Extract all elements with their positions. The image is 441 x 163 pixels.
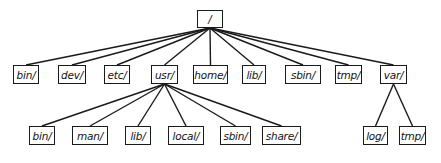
- filesystem-tree-diagram: / bin/ dev/ etc/ usr/ home/ lib/ sbin/ t…: [0, 0, 441, 163]
- node-root[interactable]: /: [197, 10, 223, 28]
- node-usr-sbin[interactable]: sbin/: [220, 126, 251, 145]
- tree-edge: [210, 28, 303, 65]
- node-var-tmp[interactable]: tmp/: [399, 126, 426, 145]
- node-usr-share[interactable]: share/: [262, 126, 301, 145]
- tree-edge: [72, 28, 210, 65]
- node-usr-lib[interactable]: lib/: [125, 126, 151, 145]
- node-home[interactable]: home/: [193, 65, 228, 84]
- tree-edge: [210, 28, 211, 65]
- node-dev[interactable]: dev/: [58, 65, 86, 84]
- tree-edge: [376, 84, 394, 126]
- node-sbin[interactable]: sbin/: [285, 65, 321, 84]
- tree-edge: [210, 28, 394, 65]
- node-bin[interactable]: bin/: [13, 65, 39, 84]
- tree-edge: [42, 84, 165, 126]
- node-var-log[interactable]: log/: [363, 126, 388, 145]
- tree-edge: [210, 28, 349, 65]
- node-tmp[interactable]: tmp/: [335, 65, 362, 84]
- node-lib[interactable]: lib/: [242, 65, 266, 84]
- tree-edge: [138, 84, 165, 126]
- tree-edge: [394, 84, 413, 126]
- tree-edge: [26, 28, 210, 65]
- node-usr[interactable]: usr/: [151, 65, 178, 84]
- node-etc[interactable]: etc/: [104, 65, 130, 84]
- node-usr-local[interactable]: local/: [168, 126, 204, 145]
- tree-edge: [117, 28, 210, 65]
- node-usr-bin[interactable]: bin/: [29, 126, 55, 145]
- node-usr-man[interactable]: man/: [72, 126, 108, 145]
- node-var[interactable]: var/: [380, 65, 407, 84]
